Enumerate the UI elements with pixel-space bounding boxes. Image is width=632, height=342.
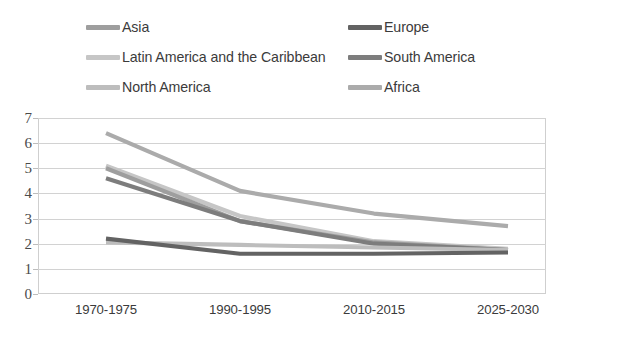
series-line <box>106 133 508 226</box>
legend-row: North AmericaAfrica <box>86 74 556 100</box>
series-line <box>106 168 508 250</box>
y-tick-label: 7 <box>25 111 33 126</box>
legend-label: Asia <box>122 19 149 35</box>
y-tick-label: 1 <box>25 261 33 276</box>
legend-swatch-icon <box>86 25 120 30</box>
plot-area <box>38 118 546 294</box>
legend-row: Latin America and the CaribbeanSouth Ame… <box>86 44 556 70</box>
y-tick-mark <box>33 294 38 295</box>
legend-label: South America <box>384 49 475 65</box>
legend-swatch-icon <box>348 55 382 60</box>
x-tick-label: 1990-1995 <box>209 302 271 317</box>
y-tick-label: 4 <box>25 186 33 201</box>
x-tick-label: 1970-1975 <box>75 302 137 317</box>
legend-swatch-icon <box>348 25 382 30</box>
chart-legend: AsiaEuropeLatin America and the Caribbea… <box>86 14 556 104</box>
legend-swatch-icon <box>86 85 120 90</box>
legend-label: Africa <box>384 79 420 95</box>
legend-item-asia[interactable]: Asia <box>86 14 149 40</box>
x-tick-label: 2025-2030 <box>477 302 539 317</box>
legend-swatch-icon <box>348 85 382 90</box>
y-tick-label: 3 <box>25 211 33 226</box>
series-lines <box>38 118 546 294</box>
legend-item-africa[interactable]: Africa <box>348 74 420 100</box>
legend-label: North America <box>122 79 211 95</box>
legend-label: Europe <box>384 19 429 35</box>
y-tick-label: 0 <box>25 287 33 302</box>
legend-item-north_america[interactable]: North America <box>86 74 211 100</box>
x-tick-label: 2010-2015 <box>343 302 405 317</box>
y-tick-label: 2 <box>25 236 33 251</box>
legend-item-europe[interactable]: Europe <box>348 14 429 40</box>
legend-swatch-icon <box>86 55 120 60</box>
series-line <box>106 166 508 249</box>
legend-row: AsiaEurope <box>86 14 556 40</box>
y-axis-labels: 76543210 <box>6 118 32 294</box>
line-chart-figure: AsiaEuropeLatin America and the Caribbea… <box>0 0 632 342</box>
y-tick-label: 5 <box>25 161 33 176</box>
legend-label: Latin America and the Caribbean <box>122 49 326 65</box>
y-tick-label: 6 <box>25 136 33 151</box>
legend-item-south_america[interactable]: South America <box>348 44 475 70</box>
legend-item-latin_america[interactable]: Latin America and the Caribbean <box>86 44 326 70</box>
